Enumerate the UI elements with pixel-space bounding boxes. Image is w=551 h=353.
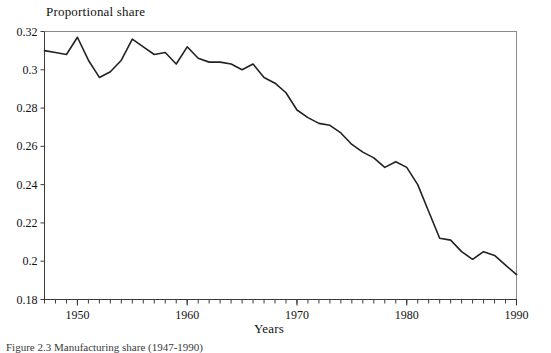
y-axis-title: Proportional share [46, 4, 145, 20]
x-tick-label: 1950 [65, 308, 89, 323]
figure-caption: Figure 2.3 Manufacturing share (1947-199… [6, 341, 203, 353]
y-tick-label: 0.24 [17, 177, 38, 192]
data-series-line [45, 37, 517, 274]
y-tick-label: 0.26 [17, 139, 38, 154]
y-tick-label: 0.22 [17, 215, 38, 230]
y-axis-ticks [41, 32, 45, 300]
y-tick-label: 0.32 [17, 24, 38, 39]
x-tick-label: 1990 [505, 308, 529, 323]
x-tick-label: 1960 [175, 308, 199, 323]
y-tick-label: 0.3 [23, 62, 38, 77]
x-axis-minor-ticks [45, 300, 517, 304]
x-tick-label: 1970 [285, 308, 309, 323]
x-axis-title: Years [254, 321, 284, 337]
y-tick-label: 0.18 [17, 292, 38, 307]
x-tick-label: 1980 [395, 308, 419, 323]
axis-lines [44, 31, 517, 300]
y-tick-label: 0.2 [23, 254, 38, 269]
y-tick-label: 0.28 [17, 101, 38, 116]
